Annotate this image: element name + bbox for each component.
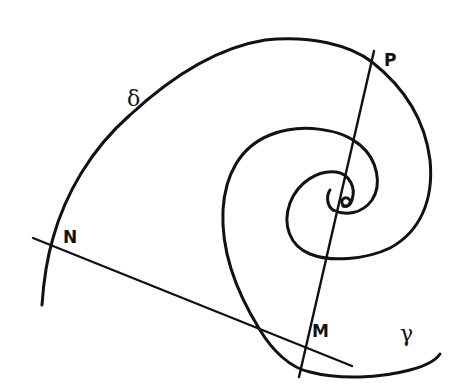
label-P: P xyxy=(384,50,396,70)
line-NM xyxy=(33,238,352,366)
label-delta: δ xyxy=(127,86,140,111)
spiral-diagram: δ P N M γ xyxy=(0,0,468,390)
pole-circle xyxy=(342,198,350,206)
label-N: N xyxy=(63,227,77,247)
label-M: M xyxy=(312,321,329,341)
label-gamma: γ xyxy=(400,321,413,346)
pole-hook xyxy=(328,190,333,210)
line-PM xyxy=(299,51,374,377)
